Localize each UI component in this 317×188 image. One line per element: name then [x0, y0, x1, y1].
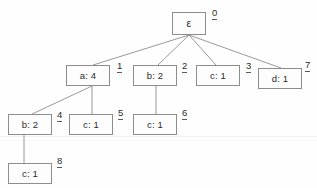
tree-node-label: a: 4 — [80, 71, 97, 81]
tree-node-label: b: 2 — [22, 120, 39, 130]
tree-node[interactable]: a: 4 — [66, 65, 110, 86]
tree-node[interactable]: b: 2 — [8, 114, 52, 135]
tree-edge — [189, 35, 216, 65]
tree-edge — [93, 35, 189, 65]
tree-node-index: 5 — [118, 108, 123, 120]
tree-node[interactable]: ε — [172, 12, 206, 35]
tree-node-index: 6 — [182, 108, 187, 120]
tree-node[interactable]: c: 1 — [196, 65, 240, 86]
tree-node-label: c: 1 — [22, 169, 38, 179]
tree-node-label: d: 1 — [272, 74, 289, 84]
tree-node-index: 1 — [117, 61, 122, 73]
tree-edge — [189, 35, 281, 68]
scan-artifact-line-secondary — [0, 140, 317, 141]
tree-node-label: c: 1 — [83, 120, 99, 130]
tree-node-label: ε — [187, 18, 192, 29]
tree-node-index: 8 — [57, 156, 62, 168]
tree-node-label: c: 1 — [147, 120, 163, 130]
tree-node-label: c: 1 — [210, 71, 226, 81]
tree-node-index: 4 — [57, 110, 62, 122]
tree-node[interactable]: d: 1 — [258, 68, 302, 89]
tree-node[interactable]: c: 1 — [133, 114, 177, 135]
tree-node[interactable]: c: 1 — [8, 163, 52, 184]
trie-diagram: ε0a: 41b: 22c: 13d: 17b: 24c: 15c: 16c: … — [0, 0, 317, 188]
tree-node-index: 3 — [246, 61, 251, 73]
scan-artifact-line — [0, 136, 317, 137]
tree-node[interactable]: c: 1 — [69, 114, 113, 135]
tree-node[interactable]: b: 2 — [133, 65, 177, 86]
tree-node-index: 0 — [212, 8, 217, 20]
tree-node-index: 2 — [182, 61, 187, 73]
tree-node-index: 7 — [305, 60, 310, 72]
edge-layer — [0, 0, 317, 188]
tree-node-label: b: 2 — [147, 71, 164, 81]
